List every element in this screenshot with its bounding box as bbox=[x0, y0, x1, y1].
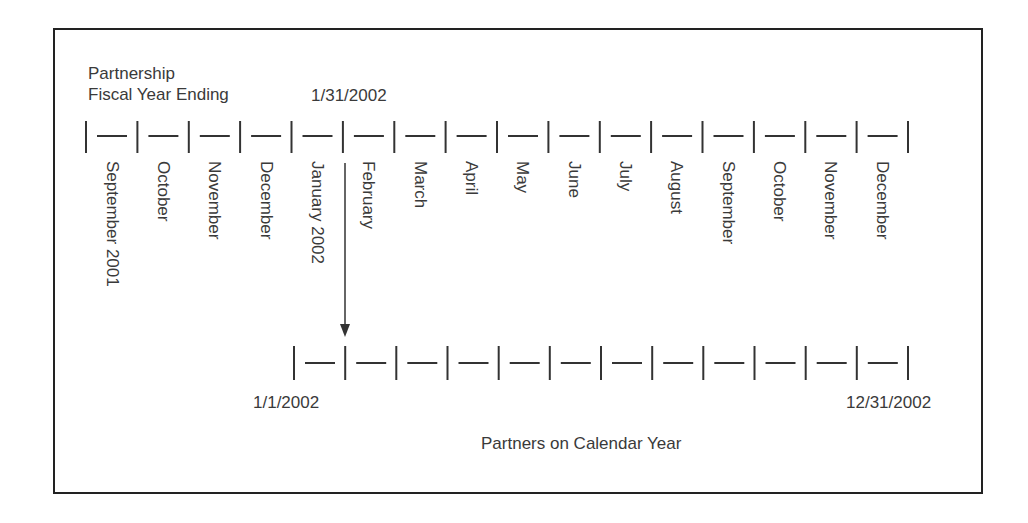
month-label: September 2001 bbox=[102, 161, 122, 287]
month-label: September bbox=[718, 161, 738, 244]
calendar-year-start-date: 1/1/2002 bbox=[253, 393, 319, 413]
month-label: March bbox=[410, 161, 430, 208]
month-label: July bbox=[615, 161, 635, 191]
month-label: May bbox=[512, 161, 532, 193]
month-label: August bbox=[666, 161, 686, 214]
month-label: December bbox=[872, 161, 892, 239]
calendar-year-end-date: 12/31/2002 bbox=[846, 393, 931, 413]
month-label: February bbox=[358, 161, 378, 229]
month-label: April bbox=[461, 161, 481, 195]
arrow-down-icon bbox=[340, 163, 350, 337]
month-label: October bbox=[153, 161, 173, 221]
month-label: January 2002 bbox=[307, 161, 327, 264]
partners-calendar-year-caption: Partners on Calendar Year bbox=[481, 434, 681, 454]
month-label: November bbox=[820, 161, 840, 239]
month-label: June bbox=[564, 161, 584, 198]
month-label: October bbox=[769, 161, 789, 221]
month-label: December bbox=[256, 161, 276, 239]
month-label: November bbox=[204, 161, 224, 239]
